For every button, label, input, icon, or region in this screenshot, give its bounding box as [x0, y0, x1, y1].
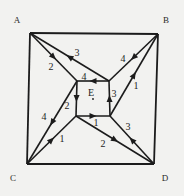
edge-weight-label: 4	[82, 71, 87, 82]
edge-weight-label: 3	[75, 47, 80, 58]
edge-weight-label: 2	[49, 61, 54, 72]
edge-weight-label: 3	[112, 88, 117, 99]
center-label-E: E	[88, 87, 94, 98]
center-point-dot	[92, 98, 94, 100]
arrowhead-icon	[90, 78, 97, 84]
frame-edge-CA	[27, 33, 30, 164]
arrowhead-icon	[73, 95, 79, 102]
node-label-A: A	[14, 15, 21, 25]
frame-edge-AB	[30, 33, 158, 34]
node-label-D: D	[162, 173, 169, 183]
edge-weight-label: 1	[134, 80, 139, 91]
frame-edge-BD	[154, 34, 158, 164]
edge-weight-label: 1	[94, 117, 99, 128]
arrowhead-icon	[110, 136, 119, 145]
arrowhead-icon	[65, 53, 74, 62]
arrowhead-icon	[48, 118, 57, 127]
directed-graph-diagram: 234413214123ABCDE	[0, 0, 184, 196]
node-label-C: C	[10, 173, 16, 183]
edge-weight-label: 1	[60, 133, 65, 144]
edge-weight-label: 4	[42, 111, 47, 122]
arrowhead-icon	[130, 70, 139, 79]
edge-weight-label: 2	[101, 138, 106, 149]
edge-weight-label: 4	[121, 53, 126, 64]
edge-weight-label: 3	[126, 121, 131, 132]
edge-weight-label: 2	[65, 100, 70, 111]
node-label-B: B	[163, 15, 169, 25]
